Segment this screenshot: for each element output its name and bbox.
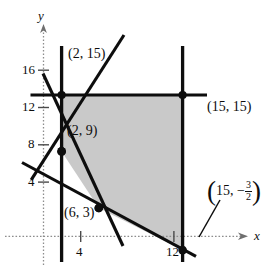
point-label-15-neg-three-halves: ( 15, − 3 2 ): [207, 180, 261, 202]
x-tick-label-4: 4: [76, 245, 83, 258]
point-label-2-15: (2, 15): [68, 47, 105, 61]
point-label-x-part: 15, −: [216, 184, 245, 198]
y-tick-label-12: 12: [22, 100, 35, 113]
vertex-dot-2-15: [58, 91, 66, 99]
y-tick-label-16: 16: [22, 63, 35, 76]
linear-programming-figure: 16 12 8 4 4 12 y x (2, 15) (15, 15) (2, …: [0, 0, 276, 273]
point-label-2-9: (2, 9): [67, 124, 97, 138]
vertex-dot-6-3: [95, 204, 104, 213]
paren-open: (: [207, 180, 216, 202]
vertex-dot-15-15: [179, 91, 187, 99]
shaded-feasible-region: [62, 95, 183, 250]
y-tick-label-8: 8: [28, 137, 35, 150]
paren-close: ): [252, 180, 261, 202]
vertex-dot-2-9: [57, 147, 66, 156]
point-label-6-3: (6, 3): [64, 206, 94, 220]
y-axis-label: y: [38, 9, 44, 22]
y-tick-label-4: 4: [28, 175, 35, 188]
x-tick-label-12: 12: [166, 245, 179, 258]
x-axis-label: x: [254, 229, 260, 242]
fraction-three-halves: 3 2: [245, 180, 252, 202]
y-axis-arrow-icon: [40, 24, 47, 33]
fraction-numerator: 3: [245, 180, 252, 191]
point-label-15-15: (15, 15): [207, 100, 251, 114]
vertex-dot-15-neg-3-2: [178, 246, 187, 255]
graph-canvas: [0, 0, 276, 273]
fraction-denominator: 2: [245, 192, 252, 203]
